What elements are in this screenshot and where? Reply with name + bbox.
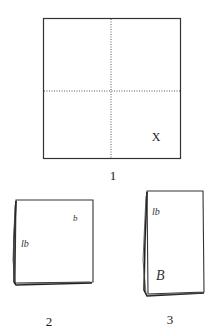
diagram-canvas xyxy=(0,0,217,336)
figure-3-mark-b-script: B xyxy=(156,270,165,281)
figure-2-mark-lb: lb xyxy=(21,238,29,249)
figure-2-mark-b: b xyxy=(73,213,78,224)
figure-1-caption: 1 xyxy=(103,169,123,182)
corner-mark-x: X xyxy=(146,131,166,144)
figure-3-mark-lb: lb xyxy=(152,206,160,217)
figure-2-caption: 2 xyxy=(39,315,59,328)
figure-3-caption: 3 xyxy=(160,313,180,326)
